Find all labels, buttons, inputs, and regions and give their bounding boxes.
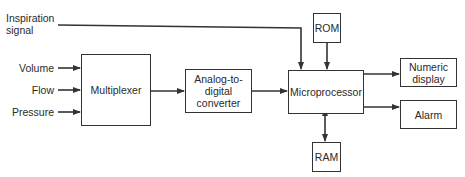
adc-block: Analog-to- digital converter [185,69,252,113]
ram-block: RAM [312,142,341,172]
alarm-block: Alarm [400,100,457,129]
rom-label: ROM [315,22,340,34]
multiplexer-label: Multiplexer [91,84,142,96]
inspiration-signal-label: Inspiration signal [6,12,54,36]
pressure-label: Pressure [2,106,54,118]
rom-block: ROM [313,13,341,43]
numeric-display-block: Numeric display [400,58,457,87]
microprocessor-block: Microprocessor [288,70,364,114]
microprocessor-label: Microprocessor [290,86,362,98]
alarm-label: Alarm [415,109,442,121]
numeric-display-label: Numeric display [409,61,448,85]
ram-label: RAM [315,151,338,163]
flow-label: Flow [6,84,54,96]
volume-label: Volume [6,62,54,74]
adc-label: Analog-to- digital converter [194,73,242,109]
multiplexer-block: Multiplexer [81,54,151,126]
